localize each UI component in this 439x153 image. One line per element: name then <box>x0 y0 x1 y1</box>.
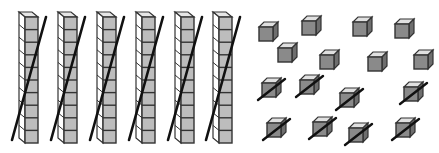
cube-front-face <box>320 55 334 69</box>
unit-cube <box>278 43 297 62</box>
unit-cube <box>259 22 278 41</box>
unit-cube-crossed <box>309 117 336 139</box>
tens-rod <box>168 12 202 143</box>
unit-cube-crossed <box>296 75 323 97</box>
tens-rod <box>129 12 163 143</box>
cube-front-face <box>368 57 382 71</box>
cube-front-face <box>414 55 428 69</box>
unit-cube-crossed <box>336 88 363 110</box>
unit-cube <box>353 17 372 36</box>
unit-cube-crossed <box>258 78 285 100</box>
tens-rods-group <box>12 12 240 143</box>
unit-cube-crossed <box>345 123 372 145</box>
cube-front-face <box>353 22 367 36</box>
tens-rod <box>90 12 124 143</box>
cube-front-face <box>395 24 409 38</box>
unit-cube-crossed <box>400 82 427 104</box>
base-ten-blocks-figure <box>0 0 439 153</box>
unit-cube <box>395 19 414 38</box>
unit-cube <box>320 50 339 69</box>
cube-front-face <box>302 21 316 35</box>
tens-rod <box>51 12 85 143</box>
cube-front-face <box>278 48 292 62</box>
unit-cubes-group <box>258 16 433 145</box>
unit-cube <box>302 16 321 35</box>
cube-front-face <box>259 27 273 41</box>
tens-rod <box>12 12 46 143</box>
unit-cube <box>368 52 387 71</box>
tens-rod <box>206 12 240 143</box>
unit-cube-crossed <box>263 118 290 140</box>
unit-cube-crossed <box>392 118 419 140</box>
blocks-svg <box>0 0 439 153</box>
unit-cube <box>414 50 433 69</box>
